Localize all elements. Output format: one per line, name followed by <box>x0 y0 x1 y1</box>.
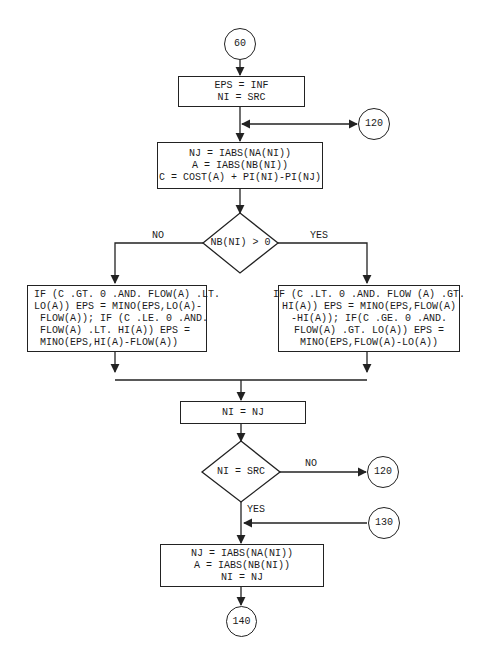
decision-src-check: NI = SRC <box>202 466 280 478</box>
yes-line-3: -HI(A)); IF(C .GE. 0 .AND. <box>291 313 447 325</box>
connector-120-top: 120 <box>358 108 390 140</box>
init-line-1: EPS = INF <box>214 80 268 92</box>
compute-box: NJ = IABS(NA(NI)) A = IABS(NB(NI)) C = C… <box>157 142 323 189</box>
final-line-2: A = IABS(NB(NI)) <box>194 560 290 572</box>
yes-line-2: HI(A)) EPS = MINO(EPS,FLOW(A) <box>282 301 456 313</box>
no-branch-box: IF (C .GT. 0 .AND. FLOW(A) .LT. LO(A)) E… <box>27 285 207 352</box>
connector-label: 130 <box>375 517 393 529</box>
final-line-1: NJ = IABS(NA(NI)) <box>191 548 293 560</box>
compute-line-1: NJ = IABS(NA(NI)) <box>189 148 291 160</box>
no-line-4: FLOW(A) .LT. HI(A)) EPS = <box>34 325 190 337</box>
connector-label: 120 <box>365 118 383 130</box>
connector-120-no: 120 <box>367 456 399 488</box>
no-line-2: LO(A)) EPS = MINO(EPS,LO(A)- <box>34 301 202 313</box>
no-line-3: FLOW(A)); IF (C .LE. 0 .AND. <box>34 313 208 325</box>
final-box: NJ = IABS(NA(NI)) A = IABS(NB(NI)) NI = … <box>160 544 324 587</box>
advance-line-1: NI = NJ <box>222 407 264 419</box>
connector-130: 130 <box>368 507 400 539</box>
label-yes-right: YES <box>310 230 328 242</box>
yes-line-4: FLOW(A) .GT. LO(A)) EPS = <box>294 325 444 337</box>
connector-label: 140 <box>232 616 250 628</box>
no-line-1: IF (C .GT. 0 .AND. FLOW(A) .LT. <box>34 289 220 301</box>
label-no-left: NO <box>152 230 164 242</box>
no-line-5: MINO(EPS,HI(A)-FLOW(A)) <box>34 337 178 349</box>
compute-line-2: A = IABS(NB(NI)) <box>192 160 288 172</box>
label-yes-src: YES <box>247 504 265 516</box>
yes-line-1: IF (C .LT. 0 .AND. FLOW (A) .GT. <box>273 289 465 301</box>
connector-140: 140 <box>226 606 257 637</box>
final-line-3: NI = NJ <box>221 572 263 584</box>
compute-line-3: C = COST(A) + PI(NI)-PI(NJ) <box>159 172 321 184</box>
connector-60: 60 <box>224 28 256 60</box>
connector-label: 120 <box>374 466 392 478</box>
connector-label: 60 <box>234 38 246 50</box>
label-no-src: NO <box>305 458 317 470</box>
init-line-2: NI = SRC <box>217 92 265 104</box>
yes-branch-box: IF (C .LT. 0 .AND. FLOW (A) .GT. HI(A)) … <box>278 285 460 352</box>
decision-nb-check: NB(NI) > 0 <box>203 237 278 249</box>
init-box: EPS = INF NI = SRC <box>178 76 305 107</box>
advance-box: NI = NJ <box>180 401 306 424</box>
yes-line-5: MINO(EPS,FLOW(A)-LO(A)) <box>300 337 438 349</box>
